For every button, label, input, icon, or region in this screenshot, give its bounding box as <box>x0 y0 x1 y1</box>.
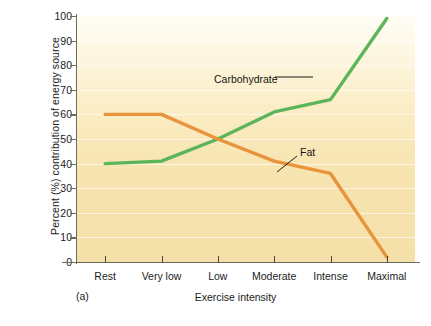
y-axis-tick-labels: 0102030405060708090100 <box>38 0 72 326</box>
x-tick-mark <box>162 256 163 263</box>
y-tick-label: 40 <box>38 158 72 170</box>
y-tick-mark <box>70 90 76 91</box>
x-tick-label: Very low <box>142 270 182 282</box>
x-tick-label: Rest <box>94 270 116 282</box>
chart-figure: Percent (%) contribution of energy sourc… <box>0 0 431 326</box>
y-tick-label: 30 <box>38 182 72 194</box>
y-tick-label: 100 <box>38 10 72 22</box>
x-tick-label: Intense <box>313 270 347 282</box>
y-tick-label: 60 <box>38 108 72 120</box>
data-series-svg <box>77 16 415 262</box>
plot-area <box>77 16 415 262</box>
x-tick-label: Low <box>208 270 227 282</box>
annotation-fat: Fat <box>300 146 315 158</box>
y-tick-label: 50 <box>38 133 72 145</box>
y-tick-mark <box>70 237 76 238</box>
y-tick-mark <box>70 16 76 17</box>
y-tick-mark <box>70 164 76 165</box>
x-tick-label: Moderate <box>252 270 296 282</box>
y-tick-mark <box>70 65 76 66</box>
y-tick-label: 80 <box>38 59 72 71</box>
y-tick-mark <box>70 41 76 42</box>
series-line-fat <box>105 114 387 257</box>
y-tick-label: 90 <box>38 35 72 47</box>
annotation-carbohydrate: Carbohydrate <box>214 73 278 85</box>
x-axis-label: Exercise intensity <box>0 291 431 303</box>
x-tick-label: Maximal <box>367 270 406 282</box>
y-tick-mark <box>70 139 76 140</box>
y-tick-label: 70 <box>38 84 72 96</box>
x-tick-mark <box>387 256 388 263</box>
panel-label: (a) <box>76 290 89 302</box>
y-tick-mark <box>70 188 76 189</box>
y-axis-line <box>76 14 77 264</box>
y-tick-mark <box>70 114 76 115</box>
y-tick-mark <box>70 262 76 263</box>
x-tick-mark <box>331 256 332 263</box>
x-tick-mark <box>218 256 219 263</box>
x-tick-mark <box>105 256 106 263</box>
y-tick-label: 20 <box>38 207 72 219</box>
x-axis-line <box>62 262 420 263</box>
x-tick-mark <box>274 256 275 263</box>
series-line-carbohydrate <box>105 18 387 163</box>
y-tick-label: 10 <box>38 231 72 243</box>
y-tick-mark <box>70 213 76 214</box>
